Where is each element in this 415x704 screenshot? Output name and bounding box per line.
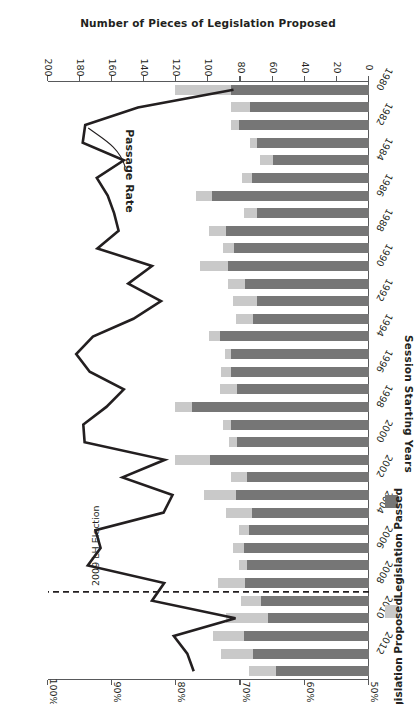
legend-label: Legislation Passed — [392, 488, 404, 598]
chart-legend: Legislation PassedLegislation Proposed — [0, 0, 415, 704]
chart-figure: 020406080100120140160180200 50%60%70%80%… — [0, 0, 415, 704]
figure-rotated-wrapper: 020406080100120140160180200 50%60%70%80%… — [0, 0, 415, 704]
legend-label: Legislation Proposed — [392, 598, 404, 704]
